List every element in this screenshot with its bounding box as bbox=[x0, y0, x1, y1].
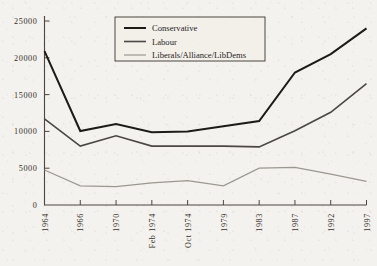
x-axis-tick-label: 1992 bbox=[327, 213, 336, 232]
chart-legend: ConservativeLabourLiberals/Alliance/LibD… bbox=[115, 17, 265, 61]
x-axis-tick-label: 1979 bbox=[220, 213, 229, 232]
x-axis-tick-label: Oct 1974 bbox=[184, 213, 193, 248]
series-line bbox=[45, 167, 367, 186]
x-axis-tick-label: 1997 bbox=[363, 213, 372, 232]
x-axis-tick-label: 1966 bbox=[76, 213, 85, 232]
chart-page: 0500010000150002000025000 196419661970Fe… bbox=[0, 0, 377, 266]
x-axis-tick-labels: 196419661970Feb 1974Oct 1974197919831987… bbox=[41, 213, 372, 249]
x-axis-tick-label: 1964 bbox=[41, 213, 50, 232]
legend-label: Conservative bbox=[152, 23, 198, 33]
y-axis-tick-label: 25000 bbox=[14, 17, 37, 26]
y-axis-tick-label: 15000 bbox=[14, 91, 37, 100]
y-axis-tick-labels: 0500010000150002000025000 bbox=[14, 17, 37, 210]
x-axis-tick-label: 1983 bbox=[255, 213, 264, 232]
y-axis-tick-label: 20000 bbox=[14, 54, 37, 63]
y-axis-tick-label: 0 bbox=[33, 201, 38, 210]
legend-label: Liberals/Alliance/LibDems bbox=[152, 50, 247, 60]
x-axis-tick-label: 1987 bbox=[291, 213, 300, 232]
series-line bbox=[45, 84, 367, 147]
y-axis-tick-label: 5000 bbox=[19, 164, 38, 173]
x-axis-tick-label: Feb 1974 bbox=[148, 213, 157, 249]
line-chart: 0500010000150002000025000 196419661970Fe… bbox=[0, 0, 377, 266]
y-axis-tick-label: 10000 bbox=[14, 127, 37, 136]
legend-label: Labour bbox=[152, 37, 177, 47]
x-axis-tick-label: 1970 bbox=[112, 213, 121, 232]
